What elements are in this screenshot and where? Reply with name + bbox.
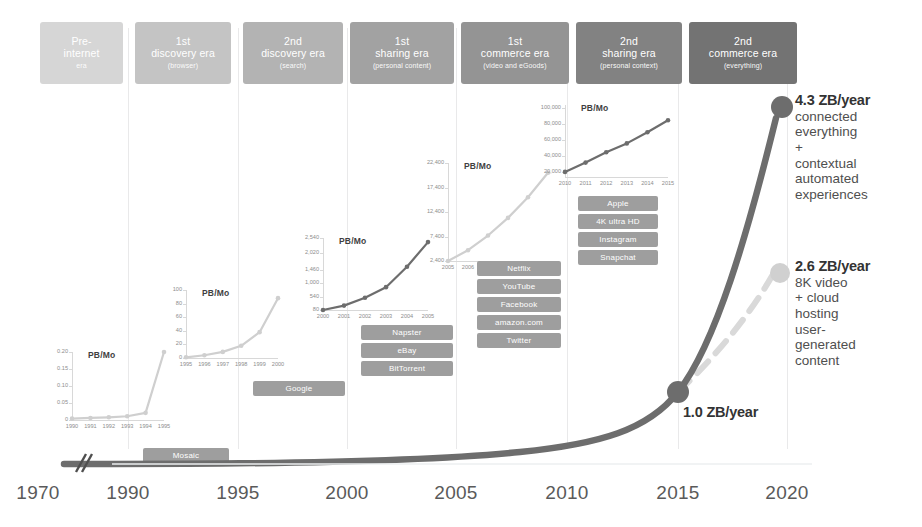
callout-value: 4.3 ZB/year bbox=[795, 92, 870, 109]
callout-line: generated bbox=[795, 337, 870, 353]
callout-markers bbox=[667, 96, 793, 403]
callout-marker-dot bbox=[667, 381, 689, 403]
callout-line: + cloud bbox=[795, 290, 870, 306]
x-axis-year-2010: 2010 bbox=[527, 482, 607, 504]
x-axis-year-1995: 1995 bbox=[198, 482, 278, 504]
x-axis-year-2020: 2020 bbox=[747, 482, 827, 504]
callout-value: 1.0 ZB/year bbox=[683, 404, 758, 421]
callout-line: user- bbox=[795, 322, 870, 338]
callout-line: hosting bbox=[795, 306, 870, 322]
callout-line: connected bbox=[795, 109, 870, 125]
callout-2015: 1.0 ZB/year bbox=[683, 404, 758, 421]
x-axis-year-2000: 2000 bbox=[307, 482, 387, 504]
callout-2020-high: 4.3 ZB/yearconnectedeverything+contextua… bbox=[795, 92, 870, 203]
callout-line: everything bbox=[795, 124, 870, 140]
x-axis-year-2015: 2015 bbox=[638, 482, 718, 504]
callout-line: experiences bbox=[795, 187, 870, 203]
callout-line: contextual bbox=[795, 156, 870, 172]
callout-value: 2.6 ZB/year bbox=[795, 258, 870, 275]
callout-2020-low: 2.6 ZB/year8K video+ cloudhostinguser-ge… bbox=[795, 258, 870, 369]
callout-marker-dot bbox=[771, 96, 793, 118]
callout-line: automated bbox=[795, 171, 870, 187]
main-curve-layer bbox=[0, 0, 922, 527]
x-axis-year-1990: 1990 bbox=[88, 482, 168, 504]
x-axis-year-2005: 2005 bbox=[416, 482, 496, 504]
callout-marker-dot bbox=[770, 263, 790, 283]
callout-line: + bbox=[795, 140, 870, 156]
infographic-canvas: Pre-internetera1stdiscovery era(browser)… bbox=[0, 0, 922, 527]
callout-line: 8K video bbox=[795, 275, 870, 291]
main-growth-curve bbox=[64, 118, 776, 464]
x-axis-year-1970: 1970 bbox=[0, 482, 78, 504]
callout-line: content bbox=[795, 353, 870, 369]
